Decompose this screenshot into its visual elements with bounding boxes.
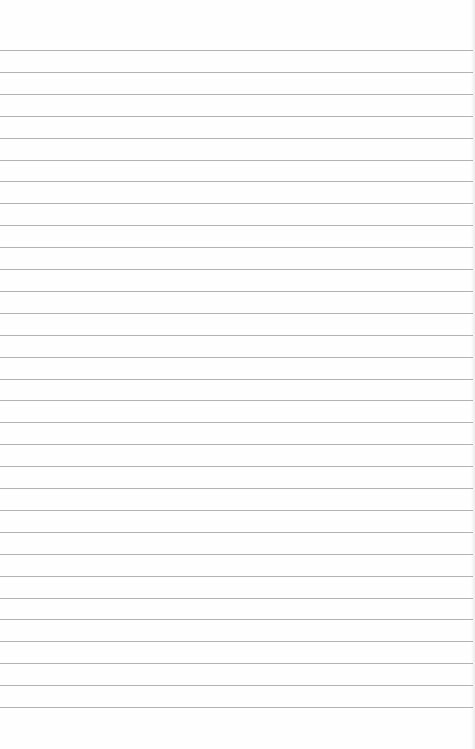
ruled-line [0, 422, 473, 423]
ruled-line [0, 72, 473, 73]
ruled-line [0, 269, 473, 270]
ruled-line [0, 400, 473, 401]
ruled-line [0, 663, 473, 664]
ruled-line [0, 94, 473, 95]
ruled-line [0, 488, 473, 489]
ruled-line [0, 203, 473, 204]
ruled-line [0, 116, 473, 117]
ruled-line [0, 641, 473, 642]
ruled-line [0, 291, 473, 292]
ruled-line [0, 444, 473, 445]
ruled-line [0, 50, 473, 51]
ruled-line [0, 379, 473, 380]
ruled-line [0, 138, 473, 139]
ruled-paper-page [0, 0, 475, 749]
ruled-line [0, 707, 473, 708]
ruled-line [0, 510, 473, 511]
ruled-line [0, 335, 473, 336]
ruled-line [0, 685, 473, 686]
ruled-line [0, 619, 473, 620]
ruled-line [0, 357, 473, 358]
ruled-line [0, 247, 473, 248]
ruled-line [0, 225, 473, 226]
ruled-line [0, 532, 473, 533]
ruled-line [0, 598, 473, 599]
ruled-line [0, 160, 473, 161]
ruled-line [0, 576, 473, 577]
ruled-line [0, 554, 473, 555]
ruled-line [0, 466, 473, 467]
ruled-line [0, 181, 473, 182]
ruled-line [0, 313, 473, 314]
page-edge-shadow [471, 0, 475, 749]
